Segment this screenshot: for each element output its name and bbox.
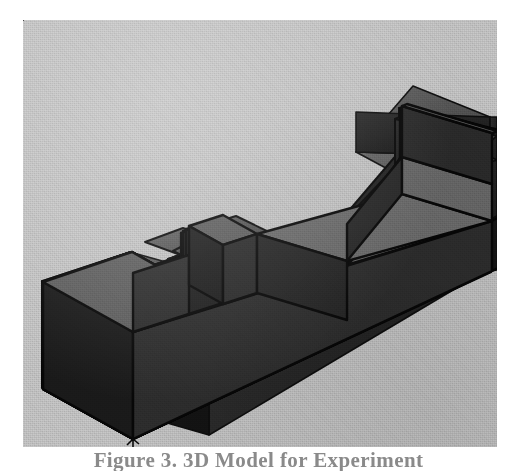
figure-caption: Figure 3. 3D Model for Experiment <box>0 449 517 471</box>
scanned-image-panel <box>23 20 497 447</box>
p-tab-front <box>223 234 257 304</box>
isometric-solid-illustration <box>23 20 497 447</box>
origin-tick <box>127 439 139 447</box>
